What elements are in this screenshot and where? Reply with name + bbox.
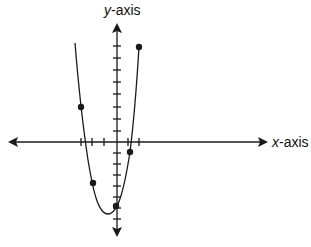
x-axis-label: x-axis [272, 134, 309, 150]
y-axis-label: y-axis [104, 2, 141, 18]
point [113, 203, 119, 209]
point [90, 180, 96, 186]
coordinate-plane [0, 0, 311, 247]
point [136, 44, 142, 50]
point [127, 149, 133, 155]
parabola-curve [75, 43, 139, 214]
point [78, 104, 84, 110]
